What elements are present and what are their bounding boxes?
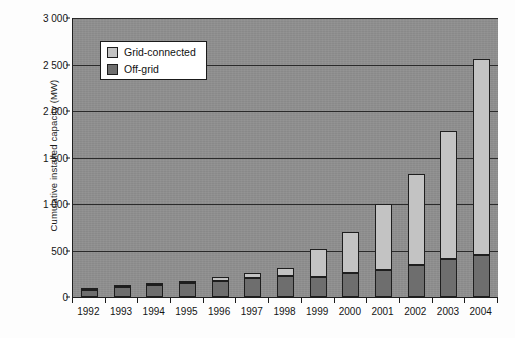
bar-segment-grid-connected (212, 277, 229, 280)
x-tick-mark (203, 298, 204, 303)
y-tick-label: 2 500 (20, 59, 68, 70)
bar-group (310, 249, 327, 297)
y-tick-mark (66, 64, 70, 65)
x-tick-mark (464, 298, 465, 303)
bar-segment-off-grid (146, 285, 163, 297)
x-tick-label: 1992 (77, 306, 99, 317)
bar-segment-off-grid (81, 290, 98, 297)
bar-segment-grid-connected (473, 59, 490, 255)
y-tick-mark (66, 111, 70, 112)
bar-group (179, 281, 196, 297)
x-tick-label: 1998 (273, 306, 295, 317)
bar-group (473, 59, 490, 297)
x-tick-label: 2002 (404, 306, 426, 317)
bar-segment-grid-connected (342, 232, 359, 273)
y-axis-ticks: 05001 0001 5002 0002 5003 000 (14, 0, 68, 338)
x-tick-mark (366, 298, 367, 303)
x-tick-label: 2001 (371, 306, 393, 317)
bar-group (244, 273, 261, 297)
x-axis-ticks (72, 298, 497, 304)
bar-segment-off-grid (114, 287, 131, 297)
y-tick-label: 1 500 (20, 152, 68, 163)
x-tick-mark (301, 298, 302, 303)
x-tick-label: 1999 (306, 306, 328, 317)
x-tick-mark (170, 298, 171, 303)
bar-group (212, 277, 229, 297)
bar-segment-grid-connected (277, 268, 294, 276)
bar-segment-off-grid (244, 278, 261, 297)
y-tick-mark (66, 250, 70, 251)
x-tick-mark (72, 298, 73, 303)
x-tick-mark (105, 298, 106, 303)
x-tick-mark (334, 298, 335, 303)
bar-segment-off-grid (310, 277, 327, 297)
chart-legend: Grid-connectedOff-grid (100, 41, 207, 80)
bar-group (440, 131, 457, 297)
bar-segment-grid-connected (408, 174, 425, 265)
x-tick-mark (235, 298, 236, 303)
x-tick-mark (497, 298, 498, 303)
y-tick-label: 500 (20, 245, 68, 256)
x-tick-label: 1997 (241, 306, 263, 317)
x-tick-mark (432, 298, 433, 303)
y-tick-mark (66, 204, 70, 205)
x-axis-tick-labels: 1992199319941995199619971998199920002001… (72, 306, 497, 322)
bar-segment-off-grid (179, 283, 196, 297)
x-tick-label: 1996 (208, 306, 230, 317)
bar-segment-off-grid (277, 276, 294, 297)
x-tick-label: 2000 (339, 306, 361, 317)
y-tick-label: 3 000 (20, 13, 68, 24)
bar-segment-off-grid (375, 270, 392, 297)
chart-figure: Cumulative installed capacity (MW) 05001… (0, 0, 515, 338)
bar-segment-grid-connected (179, 281, 196, 283)
legend-label: Off-grid (124, 63, 159, 75)
legend-item: Grid-connected (107, 46, 196, 58)
bar-segment-grid-connected (310, 249, 327, 278)
bar-group (375, 204, 392, 297)
bar-segment-off-grid (440, 259, 457, 297)
x-tick-mark (399, 298, 400, 303)
bar-group (408, 174, 425, 297)
y-tick-label: 2 000 (20, 106, 68, 117)
legend-swatch-icon (107, 64, 118, 75)
bar-group (81, 290, 98, 297)
bar-group (342, 232, 359, 297)
y-tick-mark (66, 18, 70, 19)
bar-segment-grid-connected (81, 288, 98, 290)
bar-segment-grid-connected (114, 285, 131, 287)
x-tick-mark (137, 298, 138, 303)
x-tick-label: 1994 (143, 306, 165, 317)
bar-segment-grid-connected (244, 273, 261, 278)
bar-segment-off-grid (473, 255, 490, 297)
legend-item: Off-grid (107, 63, 196, 75)
bar-group (277, 268, 294, 297)
bar-segment-off-grid (342, 273, 359, 297)
x-tick-label: 1995 (175, 306, 197, 317)
x-tick-mark (268, 298, 269, 303)
y-tick-label: 0 (20, 292, 68, 303)
x-tick-label: 1993 (110, 306, 132, 317)
bar-segment-off-grid (408, 265, 425, 297)
bar-group (114, 286, 131, 297)
x-tick-label: 2003 (437, 306, 459, 317)
bar-segment-grid-connected (440, 131, 457, 259)
bar-segment-grid-connected (375, 204, 392, 270)
x-tick-label: 2004 (470, 306, 492, 317)
legend-swatch-icon (107, 47, 118, 58)
bar-segment-off-grid (212, 281, 229, 297)
bar-segment-grid-connected (146, 283, 163, 285)
y-tick-mark (66, 297, 70, 298)
bar-group (146, 284, 163, 297)
y-tick-mark (66, 157, 70, 158)
y-tick-label: 1 000 (20, 199, 68, 210)
legend-label: Grid-connected (124, 46, 196, 58)
